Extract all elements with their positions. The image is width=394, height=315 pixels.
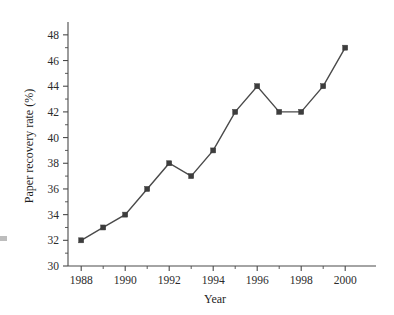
x-axis-title: Year <box>204 292 226 306</box>
data-point-marker <box>211 148 216 153</box>
x-tick-label: 1988 <box>70 274 93 286</box>
data-point-marker <box>189 174 194 179</box>
data-point-marker <box>255 84 260 89</box>
data-point-marker <box>123 212 128 217</box>
y-tick-label: 46 <box>48 55 60 67</box>
y-tick-label: 38 <box>48 157 60 169</box>
x-tick-label: 1996 <box>246 274 269 286</box>
x-tick-label: 1994 <box>202 274 225 286</box>
scan-artifact <box>0 236 7 241</box>
data-point-marker <box>101 225 106 230</box>
y-tick-label: 30 <box>48 260 60 272</box>
data-point-marker <box>299 109 304 114</box>
x-tick-label: 1992 <box>158 274 181 286</box>
y-tick-label: 44 <box>48 80 60 92</box>
data-point-marker <box>167 161 172 166</box>
data-point-marker <box>343 45 348 50</box>
x-tick-label: 2000 <box>334 274 357 286</box>
chart-svg: 30323436384042444648 1988199019921994199… <box>0 0 394 315</box>
y-tick-label: 34 <box>48 209 60 221</box>
chart-background <box>0 0 394 315</box>
data-point-marker <box>277 109 282 114</box>
data-point-marker <box>79 238 84 243</box>
y-tick-label: 42 <box>48 106 60 118</box>
y-tick-label: 40 <box>48 132 60 144</box>
data-point-marker <box>145 186 150 191</box>
line-chart: 30323436384042444648 1988199019921994199… <box>0 0 394 315</box>
data-point-marker <box>321 84 326 89</box>
data-point-marker <box>233 109 238 114</box>
y-tick-label: 36 <box>48 183 60 195</box>
x-tick-label: 1998 <box>290 274 313 286</box>
x-tick-label: 1990 <box>114 274 137 286</box>
y-tick-label: 32 <box>48 234 60 246</box>
y-axis-title: Paper recovery rate (%) <box>22 89 36 203</box>
y-tick-label: 48 <box>48 29 60 41</box>
